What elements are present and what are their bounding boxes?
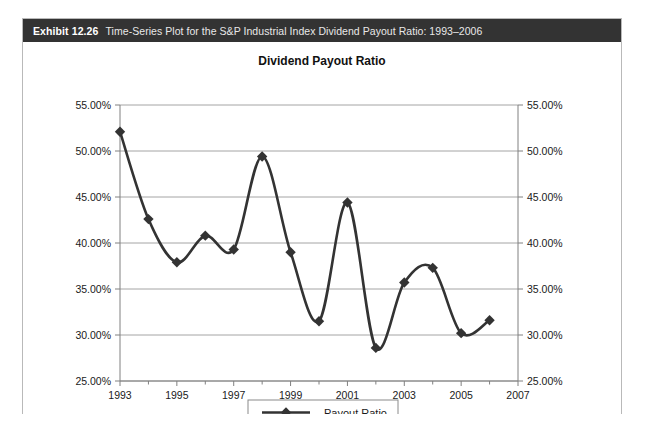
data-point-marker — [371, 343, 381, 353]
y-tick-label-right: 40.00% — [527, 237, 563, 249]
y-tick-label-left: 50.00% — [75, 145, 111, 157]
y-tick-label-right: 45.00% — [527, 191, 563, 203]
y-tick-label-right: 35.00% — [527, 283, 563, 295]
data-point-marker — [285, 247, 295, 257]
data-point-marker — [172, 257, 182, 267]
exhibit-label: Exhibit 12.26 — [33, 25, 99, 37]
data-point-marker — [143, 214, 153, 224]
x-axis: 19931995199719992001200320052007 — [108, 381, 530, 401]
chart-legend[interactable]: Payout Ratio — [248, 400, 398, 414]
x-tick-label: 1997 — [222, 389, 246, 401]
y-tick-label-right: 30.00% — [527, 329, 563, 341]
y-tick-label-left: 45.00% — [75, 191, 111, 203]
legend-label-payout-ratio: Payout Ratio — [324, 407, 387, 415]
gridlines — [120, 105, 518, 381]
series-line-payout-ratio — [120, 132, 490, 350]
dividend-payout-ratio-chart: Dividend Payout Ratio 25.00%30.00%35.00%… — [23, 42, 621, 414]
x-tick-label: 2001 — [336, 389, 360, 401]
y-tick-label-left: 25.00% — [75, 375, 111, 387]
x-tick-label: 1999 — [279, 389, 303, 401]
x-tick-label: 2003 — [393, 389, 417, 401]
y-axis-right: 25.00%30.00%35.00%40.00%45.00%50.00%55.0… — [518, 99, 563, 387]
exhibit-header: Exhibit 12.26 Time-Series Plot for the S… — [23, 19, 621, 42]
x-tick-label: 1995 — [165, 389, 189, 401]
y-tick-label-right: 55.00% — [527, 99, 563, 111]
y-tick-label-left: 55.00% — [75, 99, 111, 111]
y-tick-label-left: 30.00% — [75, 329, 111, 341]
exhibit-panel: Exhibit 12.26 Time-Series Plot for the S… — [22, 18, 622, 414]
chart-title: Dividend Payout Ratio — [258, 54, 385, 68]
data-point-marker — [314, 316, 324, 326]
data-point-marker — [115, 126, 125, 136]
x-tick-label: 1993 — [108, 389, 132, 401]
x-tick-label: 2005 — [449, 389, 473, 401]
exhibit-caption: Time-Series Plot for the S&P Industrial … — [106, 25, 483, 37]
y-axis-left: 25.00%30.00%35.00%40.00%45.00%50.00%55.0… — [75, 99, 120, 387]
series-payout-ratio — [115, 126, 495, 353]
y-tick-label-left: 35.00% — [75, 283, 111, 295]
y-tick-label-right: 25.00% — [527, 375, 563, 387]
y-tick-label-right: 50.00% — [527, 145, 563, 157]
x-tick-label: 2007 — [506, 389, 530, 401]
y-tick-label-left: 40.00% — [75, 237, 111, 249]
chart-figure: Dividend Payout Ratio 25.00%30.00%35.00%… — [23, 42, 621, 414]
